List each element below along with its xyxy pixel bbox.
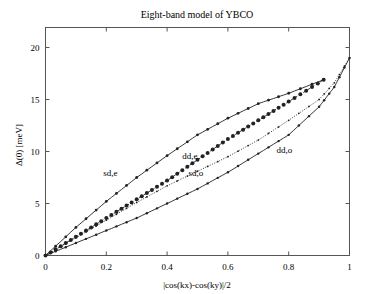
x-tick-label: 0.2 xyxy=(101,262,112,272)
y-tick-label: 15 xyxy=(31,95,41,105)
chart: Eight-band model of YBCO 00.20.40.60.810… xyxy=(0,0,365,294)
series-label: sd,o xyxy=(188,168,203,178)
chart-title: Eight-band model of YBCO xyxy=(141,9,254,20)
y-tick-label: 10 xyxy=(31,147,41,157)
x-tick-label: 0.6 xyxy=(222,262,234,272)
y-tick-label: 5 xyxy=(35,199,40,209)
series-label: dd,o xyxy=(277,145,293,155)
x-axis-label: |cos(kx)-cos(ky)|/2 xyxy=(163,280,231,290)
x-tick-label: 0 xyxy=(43,262,48,272)
series-dd-e xyxy=(44,78,326,258)
x-tick-label: 0.8 xyxy=(283,262,295,272)
series-label: dd,e xyxy=(182,151,197,161)
x-tick-label: 1 xyxy=(347,262,352,272)
y-tick-label: 20 xyxy=(31,43,41,53)
plot-frame xyxy=(46,28,350,256)
x-tick-label: 0.4 xyxy=(161,262,173,272)
y-tick-label: 0 xyxy=(35,251,40,261)
series-label: sd,e xyxy=(103,168,117,178)
y-axis-label: Δ(0) [meV] xyxy=(14,124,24,166)
axis-ticks: 00.20.40.60.8105101520 xyxy=(31,28,352,272)
